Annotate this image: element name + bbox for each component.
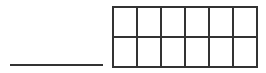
grid-cell [137, 7, 161, 37]
grid-cell [209, 7, 233, 37]
grid-cell [161, 37, 185, 67]
empty-grid [112, 6, 258, 68]
grid-cell [113, 37, 137, 67]
answer-blank-line [10, 64, 103, 66]
grid-cell [185, 37, 209, 67]
grid-cell [137, 37, 161, 67]
grid-cell [233, 7, 257, 37]
grid-row [113, 7, 257, 37]
grid-cell [185, 7, 209, 37]
grid-cell [233, 37, 257, 67]
grid-cell [161, 7, 185, 37]
grid-cell [113, 7, 137, 37]
grid-row [113, 37, 257, 67]
grid-cell [209, 37, 233, 67]
